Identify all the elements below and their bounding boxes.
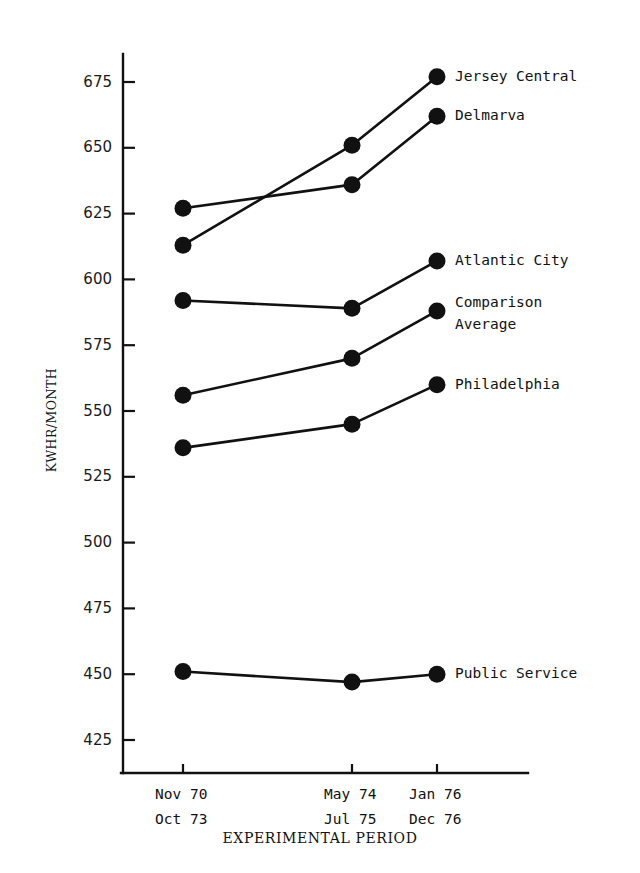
- data-point-jersey-central: [175, 237, 192, 254]
- x-tick-label-line2: Oct 73: [155, 811, 207, 827]
- y-tick-label: 575: [83, 336, 112, 354]
- data-point-delmarva: [344, 176, 361, 193]
- series-line-philadelphia: [183, 385, 437, 448]
- series-line-public-service: [183, 672, 437, 683]
- y-tick-label: 425: [83, 731, 112, 749]
- x-axis-ticks: [183, 764, 437, 773]
- data-point-atlantic-city: [429, 252, 446, 269]
- data-point-public-service: [344, 674, 361, 691]
- series-label-philadelphia: Philadelphia: [455, 376, 560, 392]
- chart-container: 425450475500525550575600625650675 Jersey…: [0, 0, 640, 873]
- y-tick-label: 650: [83, 138, 112, 156]
- data-point-delmarva: [429, 108, 446, 125]
- data-point-philadelphia: [429, 376, 446, 393]
- series-label-atlantic-city: Atlantic City: [455, 252, 569, 268]
- y-tick-label: 625: [83, 204, 112, 222]
- data-point-atlantic-city: [175, 292, 192, 309]
- data-point-philadelphia: [175, 439, 192, 456]
- y-tick-label: 675: [83, 73, 112, 91]
- y-axis-title: KWHR/MONTH: [44, 368, 59, 473]
- y-tick-label: 525: [83, 467, 112, 485]
- data-point-public-service: [429, 666, 446, 683]
- y-tick-label: 500: [83, 533, 112, 551]
- data-point-jersey-central: [429, 68, 446, 85]
- series-line-atlantic-city: [183, 261, 437, 308]
- series-line-delmarva: [183, 116, 437, 208]
- series-layer: [175, 68, 446, 690]
- data-point-public-service: [175, 663, 192, 680]
- x-tick-label-line1: Jan 76: [409, 786, 461, 802]
- series-label-public-service: Public Service: [455, 665, 577, 681]
- series-line-comparison-average: [183, 311, 437, 395]
- series-label-delmarva: Delmarva: [455, 107, 525, 123]
- data-point-comparison-average: [429, 302, 446, 319]
- data-point-comparison-average: [344, 350, 361, 367]
- x-axis-title: EXPERIMENTAL PERIOD: [223, 830, 418, 846]
- data-point-philadelphia: [344, 416, 361, 433]
- series-label-layer: Jersey CentralDelmarvaAtlantic CityCompa…: [455, 68, 577, 681]
- series-label-comparison-average-line2: Average: [455, 316, 516, 332]
- data-point-jersey-central: [344, 137, 361, 154]
- x-tick-label-line1: Nov 70: [155, 786, 207, 802]
- data-point-atlantic-city: [344, 300, 361, 317]
- y-axis-ticks: 425450475500525550575600625650675: [83, 73, 135, 749]
- y-tick-label: 475: [83, 599, 112, 617]
- data-point-delmarva: [175, 200, 192, 217]
- line-chart: 425450475500525550575600625650675 Jersey…: [0, 0, 640, 873]
- x-tick-label-line1: May 74: [324, 786, 377, 802]
- y-tick-label: 550: [83, 402, 112, 420]
- x-tick-label-layer: Nov 70Oct 73May 74Jul 75Jan 76Dec 76: [155, 786, 461, 827]
- data-point-comparison-average: [175, 387, 192, 404]
- x-tick-label-line2: Dec 76: [409, 811, 461, 827]
- series-label-comparison-average: Comparison: [455, 294, 542, 310]
- x-tick-label-line2: Jul 75: [324, 811, 376, 827]
- series-label-jersey-central: Jersey Central: [455, 68, 577, 84]
- y-tick-label: 600: [83, 270, 112, 288]
- series-line-jersey-central: [183, 77, 437, 245]
- y-tick-label: 450: [83, 665, 112, 683]
